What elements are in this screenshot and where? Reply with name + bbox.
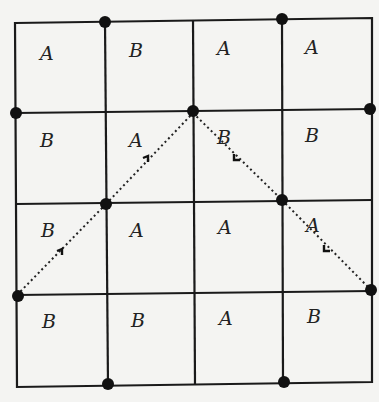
vertex-dot: [12, 290, 24, 302]
cell-label: A: [304, 214, 320, 236]
arrowhead-icon: [324, 245, 330, 251]
vertex-dot: [99, 16, 111, 28]
vertex-dot: [276, 13, 288, 25]
cell-label: A: [217, 307, 233, 329]
cell-label: B: [41, 310, 56, 332]
vertex-dot: [100, 198, 112, 210]
cell-label: B: [40, 219, 55, 241]
cell-label: B: [306, 305, 321, 327]
grid-diagram: A B A A B A B B B A A A B B A B: [0, 0, 379, 402]
cell-label: A: [216, 216, 232, 238]
cell-label: A: [38, 42, 54, 64]
cell-label: A: [303, 36, 319, 58]
vertex-dot: [187, 105, 199, 117]
cell-label: B: [216, 126, 231, 148]
vertex-dot: [102, 378, 114, 390]
cell-label: A: [215, 37, 231, 59]
path-segment-2: [106, 113, 193, 204]
cell-label: A: [127, 129, 143, 151]
arrowhead-icon: [143, 156, 148, 162]
vertex-dot: [364, 103, 376, 115]
grid-lines: [15, 18, 372, 387]
vertex-dot: [278, 376, 290, 388]
cell-label: B: [304, 124, 319, 146]
vertex-dot: [365, 284, 377, 296]
vertex-dot: [276, 194, 288, 206]
cell-label: B: [130, 309, 145, 331]
cell-label: B: [39, 129, 54, 151]
cell-label: B: [128, 39, 143, 61]
path-segment-4: [282, 200, 372, 291]
path-segment-3: [193, 113, 282, 200]
cell-label: A: [128, 219, 144, 241]
vertex-dot: [10, 107, 22, 119]
grid-line-v2: [193, 20, 195, 384]
cell-labels: A B A A B A B B B A A A B B A B: [38, 36, 321, 332]
